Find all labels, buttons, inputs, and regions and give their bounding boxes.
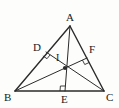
marked-points [63,66,67,70]
point-label-D: D [33,42,41,53]
point-label-I: I [56,53,59,63]
side-AB [15,26,70,91]
right-angle-at-D [43,55,50,59]
point-label-F: F [89,44,95,55]
altitude-AE [65,26,70,91]
orthocenter-dot [63,66,67,70]
point-label-C: C [106,92,113,103]
altitude-BF [15,58,87,91]
triangle-sides [15,26,104,91]
geometry-canvas [0,0,119,108]
geometry-figure: A B C D E F I [0,0,119,108]
point-label-A: A [66,12,74,23]
point-label-E: E [61,94,68,105]
point-label-B: B [4,92,11,103]
altitude-CD [46,52,104,91]
altitude-lines [15,26,104,91]
